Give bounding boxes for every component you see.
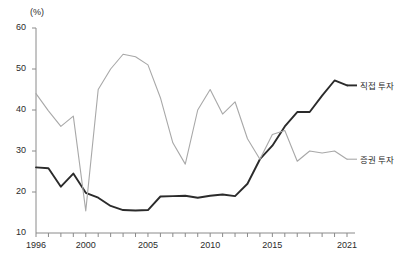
x-tick-1996: 1996 (16, 240, 56, 250)
series-label-securities-investment: 증권 투자 (360, 153, 394, 165)
x-tick-2005: 2005 (128, 240, 168, 250)
y-tick-60: 60 (4, 22, 26, 32)
chart-plot-area (0, 0, 403, 277)
series-line-securities-investment (36, 54, 347, 211)
x-tick-2015: 2015 (252, 240, 292, 250)
x-tick-2021: 2021 (327, 240, 367, 250)
investment-share-line-chart: (%) 102030405060 19962000200520102015202… (0, 0, 403, 277)
y-tick-20: 20 (4, 186, 26, 196)
y-tick-50: 50 (4, 63, 26, 73)
y-tick-10: 10 (4, 227, 26, 237)
y-tick-30: 30 (4, 145, 26, 155)
x-tick-2000: 2000 (66, 240, 106, 250)
series-label-direct-investment: 직접 투자 (360, 79, 394, 91)
y-tick-40: 40 (4, 104, 26, 114)
x-tick-2010: 2010 (190, 240, 230, 250)
